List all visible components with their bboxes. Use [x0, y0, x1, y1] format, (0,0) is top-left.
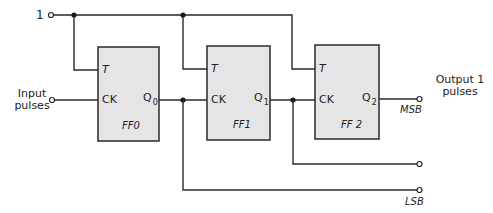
- msb-terminal: [417, 97, 422, 102]
- ff0-t-pin: T: [102, 64, 109, 76]
- ff2-t-pin: T: [319, 63, 326, 75]
- mid-bit-terminal: [417, 162, 422, 167]
- input-label-line2: pulses: [14, 100, 50, 112]
- lsb-terminal: [417, 188, 422, 193]
- output-pulses-label: Output 1 pulses: [432, 74, 488, 98]
- lsb-label: LSB: [405, 196, 424, 208]
- msb-label: MSB: [400, 104, 422, 116]
- logic-one-label: 1: [36, 9, 44, 21]
- ff0-q-pin: Q0: [143, 92, 158, 105]
- ff0-t-wire: [74, 15, 98, 70]
- ff2-name: FF 2: [341, 119, 362, 131]
- junction-dot: [180, 12, 185, 17]
- logic-one-terminal: [49, 13, 54, 18]
- ff1-t-wire: [183, 15, 207, 69]
- ff1-t-pin: T: [211, 63, 218, 75]
- output-label-line2: pulses: [432, 86, 488, 98]
- input-pulses-label: Input pulses: [14, 88, 50, 112]
- ff0-ck-pin: CK: [102, 94, 117, 106]
- ff1-name: FF1: [233, 119, 251, 131]
- input-pulses-terminal: [50, 98, 55, 103]
- ff1-ck-pin: CK: [211, 94, 226, 106]
- ff0-name: FF0: [122, 120, 140, 132]
- ff1-q-pin: Q1: [254, 92, 269, 105]
- logic-one-rail: [54, 15, 316, 69]
- ff2-ck-pin: CK: [319, 94, 334, 106]
- ff2-q-pin: Q2: [362, 92, 377, 105]
- junction-dot: [71, 12, 76, 17]
